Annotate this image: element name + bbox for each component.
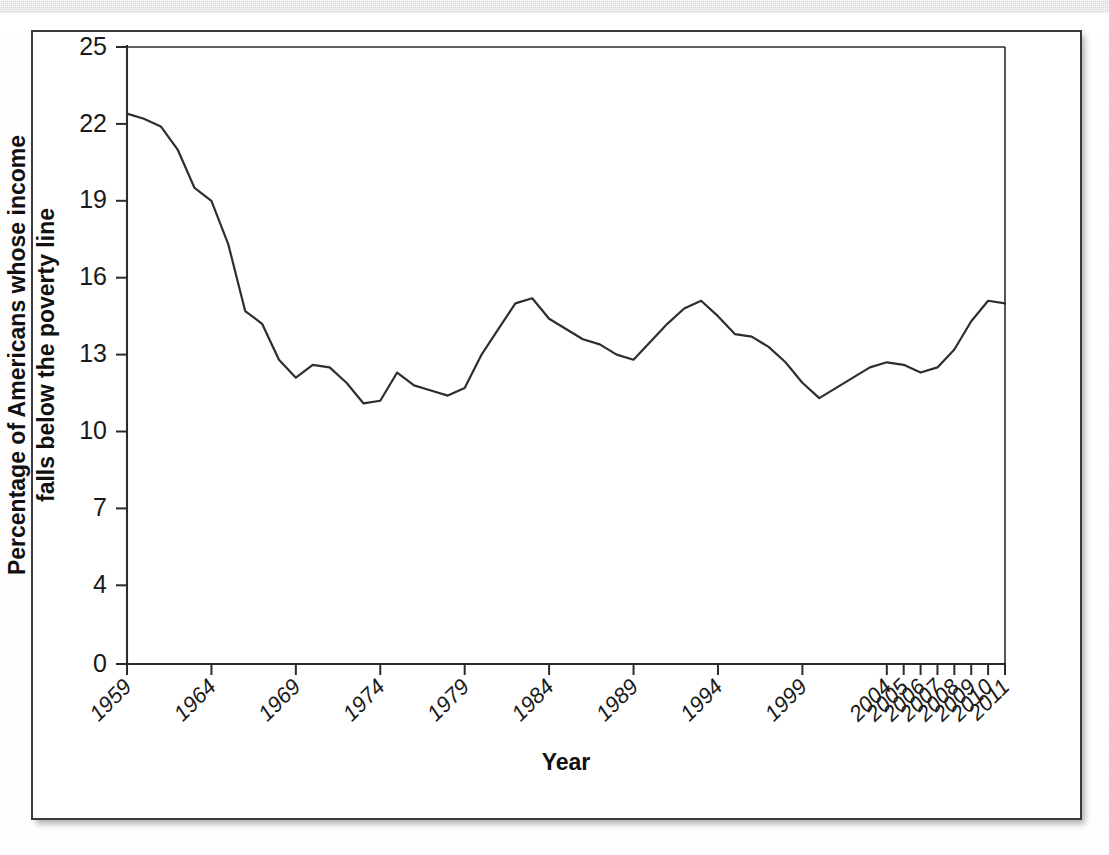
y-axis-title-group: Percentage of Americans whose income fal… xyxy=(4,135,59,575)
y-axis-title-line2: falls below the poverty line xyxy=(33,208,59,502)
y-tick-label-16: 16 xyxy=(79,262,107,290)
y-tick-label-22: 22 xyxy=(79,109,107,137)
x-tick-label-1999: 1999 xyxy=(760,674,812,726)
x-axis-tick-labels: 1959196419691974197919841989199419992004… xyxy=(84,673,1014,727)
x-tick-label-1994: 1994 xyxy=(675,674,727,726)
y-tick-label-25: 25 xyxy=(79,32,107,60)
y-axis-ticks xyxy=(116,47,127,664)
poverty-rate-line-chart: 252219161310740 195919641969197419791984… xyxy=(0,0,1078,825)
x-axis-ticks xyxy=(127,664,1005,675)
x-tick-label-1984: 1984 xyxy=(506,674,558,726)
x-tick-label-1964: 1964 xyxy=(169,674,221,726)
y-tick-label-13: 13 xyxy=(79,339,107,367)
x-tick-label-1969: 1969 xyxy=(253,674,305,726)
axis-frame xyxy=(126,46,1005,665)
x-tick-label-1989: 1989 xyxy=(591,674,643,726)
x-axis-title: Year xyxy=(542,749,591,775)
y-axis-tick-labels: 252219161310740 xyxy=(79,32,107,677)
y-tick-label-10: 10 xyxy=(79,416,107,444)
y-axis-title-line1: Percentage of Americans whose income xyxy=(4,135,30,575)
y-tick-label-19: 19 xyxy=(79,185,107,213)
x-tick-label-1974: 1974 xyxy=(338,674,390,726)
y-tick-label-4: 4 xyxy=(93,570,107,598)
poverty-rate-series-line xyxy=(127,114,1005,404)
y-tick-label-0: 0 xyxy=(93,649,107,677)
x-tick-label-1979: 1979 xyxy=(422,674,474,726)
x-tick-label-1959: 1959 xyxy=(84,674,136,726)
y-tick-label-7: 7 xyxy=(93,493,107,521)
